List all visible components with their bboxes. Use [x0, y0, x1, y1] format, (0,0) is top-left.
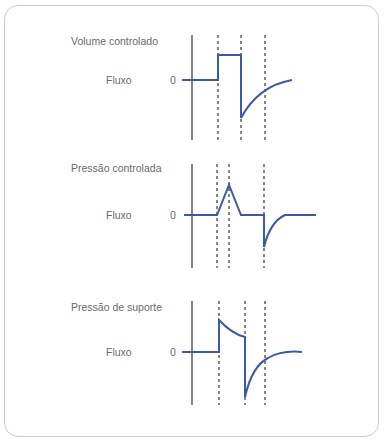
waveform-diagram: [0, 0, 388, 445]
trace-support: [182, 320, 302, 397]
trace-pressure: [184, 185, 316, 247]
trace-volume: [182, 55, 292, 118]
